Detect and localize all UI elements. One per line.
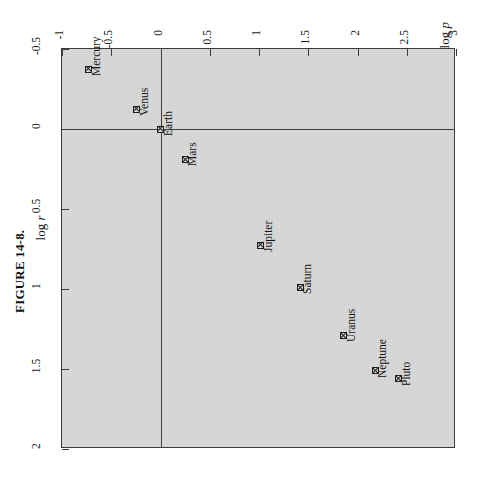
data-point-label: Jupiter [262, 221, 274, 252]
x-tick-label: 1.5 [299, 30, 311, 74]
y-axis-title: log r [33, 200, 49, 256]
zero-line-vertical [161, 49, 162, 447]
x-tick-label: 1 [250, 30, 262, 74]
data-point-label: Venus [138, 88, 150, 116]
x-tick-label: 2 [349, 30, 361, 74]
y-tick-label: 1 [30, 269, 42, 303]
x-tick-label: 0.5 [201, 30, 213, 74]
figure-root: FIGURE 14-8. MercuryVenusEarthMarsJupite… [0, 0, 485, 478]
data-point-label: Neptune [376, 339, 388, 378]
x-tick-label: 2.5 [398, 30, 410, 74]
data-point-label: Earth [162, 111, 174, 136]
x-tick-label: -1 [53, 30, 65, 74]
x-axis-title: log p [437, 22, 453, 112]
data-point-label: Uranus [345, 309, 357, 342]
y-tick-label: -0.5 [30, 29, 42, 63]
x-tick-label: 0 [152, 30, 164, 74]
figure-caption: FIGURE 14-8. [12, 213, 28, 313]
y-tick-label: 0 [30, 109, 42, 143]
scatter-plot-area: MercuryVenusEarthMarsJupiterSaturnUranus… [61, 48, 455, 448]
y-tick-label: 2 [30, 429, 42, 463]
y-tick [62, 289, 69, 290]
zero-line-horizontal [62, 129, 454, 130]
y-tick [62, 129, 69, 130]
data-point-label: Mercury [90, 36, 102, 76]
data-point-label: Mars [186, 143, 198, 167]
data-point-label: Saturn [301, 264, 313, 294]
y-tick [62, 449, 69, 450]
y-tick-label: 1.5 [30, 349, 42, 383]
data-point-label: Pluto [400, 361, 412, 385]
x-tick-label: -0.5 [102, 30, 114, 74]
y-tick [62, 209, 69, 210]
y-tick [62, 369, 69, 370]
